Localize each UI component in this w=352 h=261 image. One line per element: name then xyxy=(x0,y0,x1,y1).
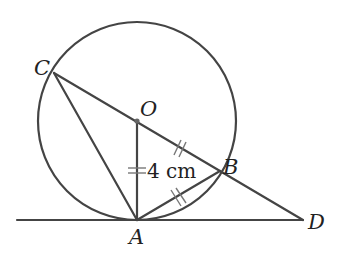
geometry-diagram: C O B A D 4 cm xyxy=(0,0,352,261)
label-a: A xyxy=(127,225,144,249)
centre-point xyxy=(134,118,139,123)
equal-mark-ab xyxy=(171,188,186,206)
label-o: O xyxy=(140,97,157,121)
label-d: D xyxy=(307,210,325,234)
chord-ca xyxy=(54,73,137,220)
label-b: B xyxy=(222,155,238,179)
label-c: C xyxy=(34,56,50,80)
measurement-oa: 4 cm xyxy=(147,159,196,183)
